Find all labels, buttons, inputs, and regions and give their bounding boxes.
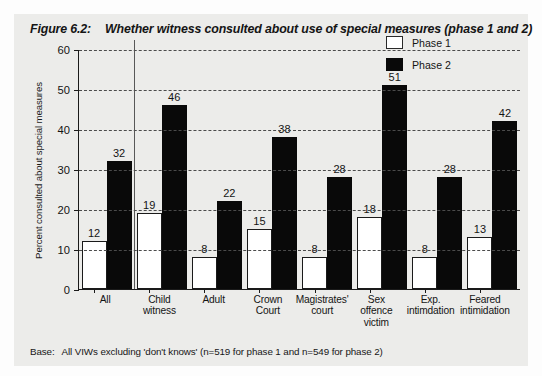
legend-swatch-icon xyxy=(386,58,403,71)
y-axis-title: Percent consulted about special measures xyxy=(26,50,50,290)
bar-value-label: 28 xyxy=(333,163,345,175)
bar-phase-1[interactable]: 15 xyxy=(247,229,272,289)
gridline-60 xyxy=(79,50,520,51)
x-label-line: All xyxy=(78,294,132,305)
gridline-20 xyxy=(79,210,520,211)
y-tick-label-50: 50 xyxy=(58,84,70,96)
x-label-line: Magistrates' xyxy=(295,294,349,305)
x-label-line: Adult xyxy=(187,294,241,305)
y-tick-label-60: 60 xyxy=(58,44,70,56)
x-label-feared-intimidation: Fearedintimidation xyxy=(458,294,512,340)
bar-value-label: 15 xyxy=(253,215,265,227)
bar-phase-1[interactable]: 8 xyxy=(412,257,437,289)
gridline-30 xyxy=(79,170,520,171)
bar-value-label: 18 xyxy=(364,203,376,215)
bar-phase-2[interactable]: 28 xyxy=(437,177,462,289)
x-tick-mark xyxy=(259,288,260,293)
x-tick-mark xyxy=(149,288,150,293)
x-label-line: offence xyxy=(349,305,403,316)
x-axis-tick-labels: AllChild witnessAdultCrownCourtMagistrat… xyxy=(78,294,512,340)
x-label-sex-offence-victim: Sexoffencevictim xyxy=(349,294,403,340)
x-label-crown-court: CrownCourt xyxy=(241,294,295,340)
y-tick-label-40: 40 xyxy=(58,124,70,136)
bar-phase-2[interactable]: 46 xyxy=(162,105,187,289)
x-label-exp-intimdation: Exp.intimdation xyxy=(404,294,458,340)
bar-value-label: 13 xyxy=(474,223,486,235)
legend-item-phase-1[interactable]: Phase 1 xyxy=(386,36,451,49)
chart-legend: Phase 1Phase 2 xyxy=(386,36,451,71)
y-tick-mark-10 xyxy=(74,250,79,251)
bar-value-label: 22 xyxy=(223,187,235,199)
y-tick-mark-30 xyxy=(74,170,79,171)
bar-phase-2[interactable]: 22 xyxy=(217,201,242,289)
bar-phase-1[interactable]: 12 xyxy=(82,241,107,289)
legend-item-phase-2[interactable]: Phase 2 xyxy=(386,58,451,71)
x-label-adult: Adult xyxy=(187,294,241,340)
bar-phase-1[interactable]: 18 xyxy=(357,217,382,289)
bar-value-label: 8 xyxy=(312,243,318,255)
x-tick-mark xyxy=(425,288,426,293)
bar-phase-1[interactable]: 8 xyxy=(192,257,217,289)
gridline-50 xyxy=(79,90,520,91)
x-tick-mark xyxy=(94,288,95,293)
figure-footnote: Base:All VIWs excluding 'don't knows' (n… xyxy=(30,346,518,357)
bar-value-label: 51 xyxy=(389,71,401,83)
bar-value-label: 8 xyxy=(201,243,207,255)
y-tick-mark-0 xyxy=(74,290,79,291)
y-tick-mark-60 xyxy=(74,50,79,51)
legend-label: Phase 1 xyxy=(412,37,451,49)
y-tick-mark-20 xyxy=(74,210,79,211)
x-tick-mark xyxy=(370,288,371,293)
bar-phase-2[interactable]: 32 xyxy=(107,161,132,289)
x-label-magistrates-court: Magistrates'court xyxy=(295,294,349,340)
bar-phase-2[interactable]: 51 xyxy=(382,85,407,289)
figure-panel: Figure 6.2: Whether witness consulted ab… xyxy=(14,14,528,366)
gridline-40 xyxy=(79,130,520,131)
y-tick-mark-40 xyxy=(74,130,79,131)
bar-value-label: 8 xyxy=(422,243,428,255)
x-label-line: Sex xyxy=(349,294,403,305)
y-tick-label-20: 20 xyxy=(58,204,70,216)
figure-number: Figure 6.2: xyxy=(30,22,91,36)
gridline-10 xyxy=(79,250,520,251)
x-label-line: intimdation xyxy=(404,305,458,316)
footnote-text: All VIWs excluding 'don't knows' (n=519 … xyxy=(62,346,383,357)
bar-phase-2[interactable]: 28 xyxy=(327,177,352,289)
y-axis-tick-labels: 0102030405060 xyxy=(48,50,74,290)
y-tick-label-10: 10 xyxy=(58,244,70,256)
bar-phase-1[interactable]: 13 xyxy=(467,237,492,289)
bar-phase-1[interactable]: 8 xyxy=(302,257,327,289)
bar-value-label: 38 xyxy=(278,123,290,135)
bar-phase-2[interactable]: 38 xyxy=(272,137,297,289)
legend-swatch-icon xyxy=(386,36,403,49)
chart-container: Percent consulted about special measures… xyxy=(30,50,520,322)
y-tick-mark-50 xyxy=(74,90,79,91)
x-label-all: All xyxy=(78,294,132,340)
page-title: Whether witness consulted about use of s… xyxy=(105,22,532,36)
bar-phase-2[interactable]: 42 xyxy=(492,121,517,289)
bar-value-label: 28 xyxy=(444,163,456,175)
bar-value-label: 32 xyxy=(113,147,125,159)
y-tick-label-30: 30 xyxy=(58,164,70,176)
bar-value-label: 46 xyxy=(168,91,180,103)
bar-value-label: 12 xyxy=(88,227,100,239)
bar-phase-1[interactable]: 19 xyxy=(137,213,162,289)
bar-value-label: 42 xyxy=(499,107,511,119)
x-label-line: Crown xyxy=(241,294,295,305)
x-label-child-witness: Child witness xyxy=(132,294,186,340)
footnote-label: Base: xyxy=(30,346,55,357)
legend-label: Phase 2 xyxy=(412,59,451,71)
x-label-line: Child witness xyxy=(132,294,186,317)
x-tick-mark xyxy=(315,288,316,293)
x-label-line: court xyxy=(295,305,349,316)
x-label-line: intimidation xyxy=(458,305,512,316)
y-tick-label-0: 0 xyxy=(64,284,70,296)
plot-area: 12321946822153882818518281342 xyxy=(78,50,520,290)
x-tick-mark xyxy=(480,288,481,293)
x-tick-mark xyxy=(204,288,205,293)
x-label-line: Exp. xyxy=(404,294,458,305)
x-label-line: Feared xyxy=(458,294,512,305)
x-label-line: Court xyxy=(241,305,295,316)
x-label-line: victim xyxy=(349,317,403,328)
